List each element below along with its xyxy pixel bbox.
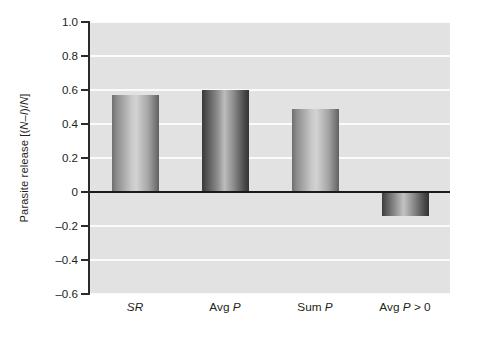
gridline: [90, 293, 450, 294]
gridline: [90, 225, 450, 227]
y-axis-tick-label: 1.0: [34, 16, 78, 28]
y-axis-tick: [81, 21, 89, 23]
y-axis-tick: [81, 225, 89, 227]
plot-area: [90, 22, 450, 294]
y-axis-tick-label: –0.4: [34, 254, 78, 266]
y-axis-tick-label: 0: [34, 186, 78, 198]
y-axis-tick-label: 0.8: [34, 50, 78, 62]
x-axis-tick-label: Avg P > 0: [345, 300, 465, 314]
y-axis-tick-label: 0.4: [34, 118, 78, 130]
y-axis-tick-label: 0.2: [34, 152, 78, 164]
y-axis-tick: [81, 55, 89, 57]
bar: [202, 90, 249, 192]
y-axis-tick: [81, 123, 89, 125]
y-axis-tick: [81, 259, 89, 261]
y-axis-tick-label: –0.6: [34, 288, 78, 300]
y-axis-tick: [81, 89, 89, 91]
bar: [112, 95, 159, 192]
y-axis-tick-labels: 1.00.80.60.40.20–0.2–0.4–0.6: [24, 0, 78, 337]
y-axis-tick-label: 0.6: [34, 84, 78, 96]
gridline: [90, 259, 450, 261]
y-axis-tick-label: –0.2: [34, 220, 78, 232]
y-axis-tick: [81, 157, 89, 159]
gridline: [90, 55, 450, 57]
bar: [382, 192, 429, 216]
gridline: [90, 22, 450, 23]
y-axis-tick: [81, 191, 89, 193]
zero-line: [90, 191, 450, 193]
gridline: [90, 89, 450, 91]
bar: [292, 109, 339, 192]
bar-chart-figure: Parasite release [(N–I)/N] 1.00.80.60.40…: [0, 0, 478, 337]
y-axis-tick: [81, 293, 89, 295]
x-axis-tick-labels: SRAvg PSum PAvg P > 0: [90, 300, 450, 326]
